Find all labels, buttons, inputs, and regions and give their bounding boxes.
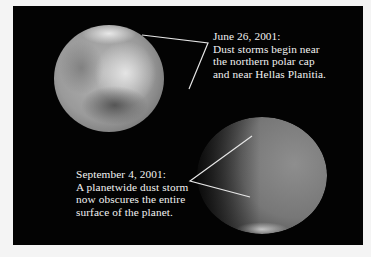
caption-date: June 26, 2001: [213,30,326,43]
caption-line: A planetwide dust storm [76,181,188,194]
pointer-line-september [190,136,252,197]
caption-line: Dust storms begin near [213,43,326,56]
caption-line: the northern polar cap [213,55,326,68]
caption-line: now obscures the entire [76,193,188,206]
pointer-line-june [142,35,208,89]
caption-line: surface of the planet. [76,206,188,219]
caption-june: June 26, 2001: Dust storms begin near th… [213,30,326,80]
caption-line: and near Hellas Planitia. [213,68,326,81]
caption-date: September 4, 2001: [76,168,188,181]
caption-september: September 4, 2001: A planetwide dust sto… [76,168,188,218]
